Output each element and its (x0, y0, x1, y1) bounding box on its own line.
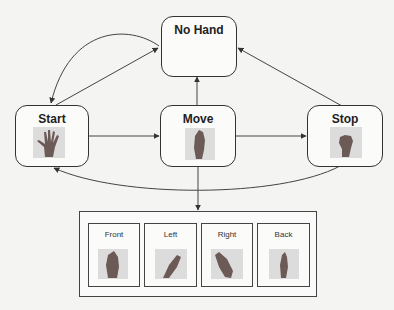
orientation-right-label: Right (202, 230, 252, 239)
hand-right-icon (211, 249, 243, 279)
orientation-front-label: Front (89, 230, 139, 239)
fist-icon (330, 127, 362, 158)
state-stop: Stop (307, 105, 383, 167)
open-hand-icon (33, 127, 65, 158)
state-move: Move (160, 105, 236, 167)
orientation-back-label: Back (258, 230, 309, 239)
hand-back-icon (269, 249, 299, 279)
state-start: Start (15, 105, 89, 167)
arrow-stop-to-start (54, 166, 340, 190)
arrow-nohand-to-start (51, 34, 159, 103)
state-no-hand-label: No Hand (162, 23, 236, 37)
state-diagram: No Hand Start Move Stop Front (0, 0, 394, 310)
orientation-right: Right (201, 223, 253, 287)
state-stop-label: Stop (308, 112, 382, 126)
orientation-front: Front (88, 223, 140, 287)
state-start-label: Start (16, 112, 88, 126)
arrow-start-to-nohand (56, 48, 158, 105)
state-move-label: Move (161, 112, 235, 126)
orientation-left-label: Left (145, 230, 196, 239)
orientation-left: Left (144, 223, 197, 287)
state-no-hand: No Hand (161, 16, 237, 77)
orientation-back: Back (257, 223, 310, 287)
arrow-stop-to-nohand (238, 48, 342, 106)
hand-left-icon (155, 249, 187, 279)
hand-front-icon (98, 249, 128, 279)
orientation-group: Front Left Right Back (79, 211, 317, 297)
upright-hand-icon (185, 128, 215, 160)
